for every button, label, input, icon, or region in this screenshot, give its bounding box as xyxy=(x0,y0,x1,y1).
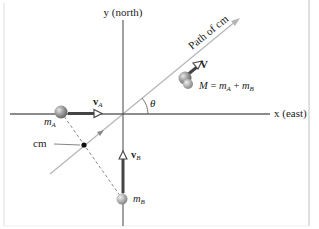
velocity-a-arrow xyxy=(68,110,102,118)
cm-label: cm xyxy=(33,137,47,149)
particle-b-mass-label: mB xyxy=(133,193,146,206)
velocity-b-arrow xyxy=(119,151,127,193)
cm-dot xyxy=(81,142,86,147)
cm-leader-line xyxy=(54,144,80,145)
particle-a-ball xyxy=(55,106,68,119)
frame xyxy=(4,0,309,226)
x-axis-label: x (east) xyxy=(274,107,307,120)
particle-b-ball xyxy=(117,194,128,205)
cm-path-line xyxy=(50,18,240,174)
theta-arc xyxy=(142,98,148,114)
combined-velocity-label: V xyxy=(200,58,208,70)
combined-mass-label: M = mA + mB xyxy=(198,80,255,93)
collision-diagram: y (north) x (east) Path of cm θ V M = mA… xyxy=(0,0,319,229)
combined-mass-balls xyxy=(179,72,194,90)
particle-a-velocity-label: vA xyxy=(93,96,103,109)
separation-dashed-line xyxy=(61,112,121,197)
particle-b-velocity-label: vB xyxy=(131,149,141,162)
y-axis-label: y (north) xyxy=(104,6,143,19)
theta-label: θ xyxy=(150,97,156,109)
particle-a-mass-label: mA xyxy=(44,116,57,129)
path-of-cm-label: Path of cm xyxy=(186,12,231,52)
